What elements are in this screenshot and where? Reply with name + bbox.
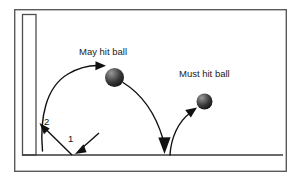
outer-frame — [15, 10, 287, 172]
step-one-label: 1 — [68, 133, 73, 144]
must-hit-ball-label: Must hit ball — [179, 68, 230, 79]
diagram-canvas: May hit ball Must hit ball 1 2 — [0, 0, 300, 182]
wall-rectangle — [23, 15, 37, 156]
step-two-label: 2 — [44, 116, 49, 127]
may-hit-ball-label: May hit ball — [79, 46, 127, 57]
may-hit-ball — [105, 68, 124, 87]
descending-arc — [123, 83, 163, 140]
ascending-arc — [170, 113, 190, 155]
wall-rebound-arrowhead — [95, 61, 106, 70]
descending-arrowhead — [158, 137, 170, 154]
must-hit-ball — [197, 94, 213, 110]
ball-trajectory-diagram: May hit ball Must hit ball 1 2 — [0, 0, 300, 182]
